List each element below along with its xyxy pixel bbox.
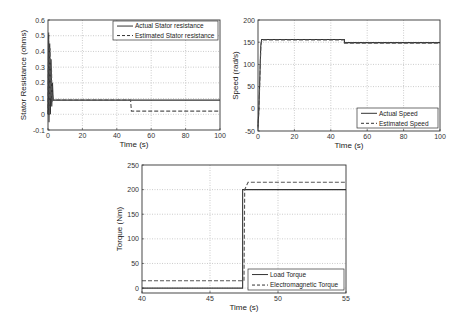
- y-tick-label: 100: [243, 61, 255, 68]
- y-tick-label: 150: [127, 211, 139, 218]
- speed-chart: 020406080100-50050100150200Time (s)Speed…: [231, 17, 446, 151]
- torque-chart: 40455055050100150200250Time (s)Torque (N…: [115, 162, 350, 313]
- y-tick-label: 0: [41, 111, 45, 118]
- y-tick-label: 0.5: [35, 32, 45, 39]
- x-tick-label: 100: [214, 132, 226, 139]
- y-tick-label: 100: [127, 235, 139, 242]
- y-tick-label: 0.4: [35, 48, 45, 55]
- legend-entry: Actual Stator resistance: [135, 22, 204, 29]
- x-tick-label: 40: [327, 133, 335, 140]
- y-tick-label: -0.1: [33, 127, 45, 134]
- y-tick-label: 200: [243, 17, 255, 24]
- x-axis-label: Time (s): [334, 141, 363, 150]
- y-tick-label: 50: [131, 260, 139, 267]
- x-tick-label: 60: [363, 133, 371, 140]
- x-tick-label: 0: [256, 133, 260, 140]
- x-tick-label: 55: [342, 295, 350, 302]
- legend-entry: Actual Speed: [379, 110, 418, 118]
- y-tick-label: 200: [127, 186, 139, 193]
- x-tick-label: 80: [400, 133, 408, 140]
- y-tick-label: 0.6: [35, 17, 45, 24]
- x-tick-label: 20: [291, 133, 299, 140]
- x-axis-label: Time (s): [119, 140, 148, 149]
- y-axis-label: Speed (rad/s): [231, 51, 240, 100]
- x-tick-label: 40: [138, 295, 146, 302]
- legend-entry: Estimated Stator resistance: [135, 32, 215, 39]
- figure-canvas: 020406080100-0.100.10.20.30.40.50.6Time …: [0, 0, 466, 325]
- legend: Actual SpeedEstimated Speed: [357, 108, 438, 128]
- y-axis-label: Stator Resistance (ohms): [19, 30, 28, 121]
- legend-entry: Electromagnetic Torque: [270, 281, 339, 289]
- stator-resistance-chart: 020406080100-0.100.10.20.30.40.50.6Time …: [19, 17, 226, 150]
- x-tick-label: 45: [206, 295, 214, 302]
- y-tick-label: 0.3: [35, 64, 45, 71]
- y-tick-label: 150: [243, 39, 255, 46]
- x-tick-label: 60: [147, 132, 155, 139]
- y-axis-label: Torque (Nm): [115, 206, 124, 251]
- x-tick-label: 20: [79, 132, 87, 139]
- y-tick-label: 0: [135, 285, 139, 292]
- y-tick-label: 0.1: [35, 95, 45, 102]
- x-axis-label: Time (s): [229, 303, 258, 312]
- legend: Load TorqueElectromagnetic Torque: [248, 269, 344, 290]
- y-tick-label: -50: [245, 128, 255, 135]
- legend-entry: Load Torque: [270, 271, 306, 279]
- x-tick-label: 0: [46, 132, 50, 139]
- y-tick-label: 0: [251, 105, 255, 112]
- x-tick-label: 50: [274, 295, 282, 302]
- y-tick-label: 250: [127, 162, 139, 169]
- x-tick-label: 100: [434, 133, 446, 140]
- legend: Actual Stator resistanceEstimated Stator…: [113, 21, 218, 40]
- x-tick-label: 40: [113, 132, 121, 139]
- y-tick-label: 50: [247, 83, 255, 90]
- x-tick-label: 80: [182, 132, 190, 139]
- y-tick-label: 0.2: [35, 79, 45, 86]
- legend-entry: Estimated Speed: [379, 120, 429, 128]
